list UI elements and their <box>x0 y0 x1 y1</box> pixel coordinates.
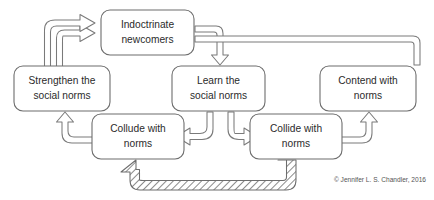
node-strengthen-line2: social norms <box>33 90 90 101</box>
copyright-credit: © Jennifer L. S. Chandler, 2016 <box>334 176 426 183</box>
node-collide-line1: Collide with <box>270 123 322 134</box>
connector-indoctrinate-to-contend <box>195 36 420 65</box>
connector-strengthen-to-indoctrinate <box>57 25 96 68</box>
node-collude[interactable]: Collude with norms <box>92 114 184 159</box>
node-learn-box[interactable] <box>172 66 265 111</box>
node-indoctrinate-box[interactable] <box>101 10 194 55</box>
node-indoctrinate[interactable]: Indoctrinate newcomers <box>101 10 194 55</box>
node-learn-line2: social norms <box>190 90 247 101</box>
node-contend[interactable]: Contend with norms <box>320 66 416 111</box>
node-learn-line1: Learn the <box>197 75 240 86</box>
node-collide-line2: norms <box>282 138 310 149</box>
node-strengthen-box[interactable] <box>14 66 110 111</box>
node-learn[interactable]: Learn the social norms <box>172 66 265 111</box>
connector-collide-to-contend <box>341 112 378 143</box>
node-contend-line2: norms <box>354 90 382 101</box>
node-strengthen-line1: Strengthen the <box>29 75 96 86</box>
node-strengthen[interactable]: Strengthen the social norms <box>14 66 110 111</box>
node-indoctrinate-line1: Indoctrinate <box>121 19 175 30</box>
diagram-canvas: Indoctrinate newcomers Strengthen the so… <box>0 0 434 200</box>
connector-contend-to-indoctrinate <box>45 15 96 68</box>
connector-collude-to-strengthen <box>57 112 94 143</box>
node-indoctrinate-line2: newcomers <box>121 34 173 45</box>
node-collude-line1: Collude with <box>110 123 166 134</box>
node-collide-box[interactable] <box>250 114 342 159</box>
node-collude-line2: norms <box>124 138 152 149</box>
node-collude-box[interactable] <box>92 114 184 159</box>
node-contend-line1: Contend with <box>338 75 397 86</box>
connector-indoctrinate-to-learn <box>195 26 229 65</box>
node-contend-box[interactable] <box>320 66 416 111</box>
node-collide[interactable]: Collide with norms <box>250 114 342 159</box>
diagram-figure: Indoctrinate newcomers Strengthen the so… <box>0 0 434 200</box>
connector-collide-to-collude-hatched <box>121 160 296 190</box>
